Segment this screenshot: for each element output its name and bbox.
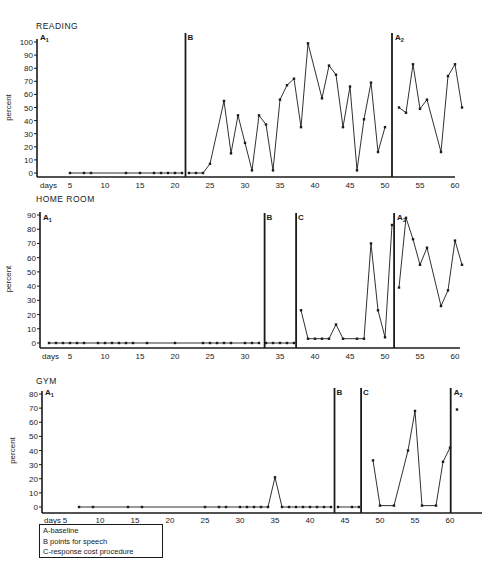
y-axis-label: percent	[4, 93, 13, 120]
data-point	[62, 342, 64, 344]
data-point	[447, 289, 449, 291]
data-point	[293, 77, 295, 79]
data-point	[405, 112, 407, 114]
data-point	[153, 172, 155, 174]
phase-label-a2: A2	[397, 213, 406, 223]
data-point	[356, 169, 358, 171]
data-point	[258, 114, 260, 116]
data-point	[456, 408, 458, 410]
data-point	[146, 342, 148, 344]
y-tick-label: 0	[32, 339, 37, 348]
data-point	[358, 506, 360, 508]
x-tick-label: 10	[101, 181, 110, 190]
x-tick-label: 5	[68, 352, 73, 361]
data-point	[132, 342, 134, 344]
legend-item-b: B points for speech	[43, 537, 159, 548]
x-axis-label: days	[40, 181, 57, 190]
data-series-line	[79, 477, 331, 507]
y-tick-label: 20	[24, 143, 33, 152]
y-tick-label: 80	[29, 390, 38, 399]
x-tick-label: 15	[136, 352, 145, 361]
data-point	[223, 100, 225, 102]
phase-label-a2: A2	[454, 388, 463, 398]
x-tick-label: 35	[276, 352, 285, 361]
data-point	[244, 342, 246, 344]
data-point	[323, 506, 325, 508]
data-series-line	[399, 218, 462, 306]
data-point	[426, 247, 428, 249]
data-point	[202, 172, 204, 174]
data-point	[223, 342, 225, 344]
data-point	[307, 42, 309, 44]
data-point	[209, 342, 211, 344]
data-point	[111, 342, 113, 344]
data-point	[370, 81, 372, 83]
x-tick-label: 25	[201, 516, 210, 525]
legend-item-a: A-baseline	[43, 526, 159, 537]
data-point	[251, 169, 253, 171]
legend-item-c: C-response cost procedure	[43, 547, 159, 558]
data-series-line	[373, 411, 450, 506]
y-tick-label: 30	[29, 461, 38, 470]
data-point	[260, 506, 262, 508]
y-tick-label: 10	[29, 489, 38, 498]
data-point	[69, 342, 71, 344]
data-point	[83, 342, 85, 344]
x-tick-label: 10	[101, 352, 110, 361]
data-point	[225, 506, 227, 508]
data-point	[300, 309, 302, 311]
data-point	[398, 286, 400, 288]
data-point	[90, 172, 92, 174]
data-point	[379, 504, 381, 506]
panel-reading: READING0102030405060708090100percentdays…	[4, 21, 463, 190]
phase-label-b: B	[188, 33, 194, 42]
phase-label-c: C	[363, 388, 369, 397]
x-tick-label: 25	[206, 181, 215, 190]
data-point	[370, 242, 372, 244]
data-point	[125, 172, 127, 174]
data-point	[405, 217, 407, 219]
data-point	[335, 323, 337, 325]
y-tick-label: 30	[27, 296, 36, 305]
x-tick-label: 25	[206, 352, 215, 361]
data-point	[461, 106, 463, 108]
data-point	[160, 172, 162, 174]
x-tick-label: 55	[416, 181, 425, 190]
y-tick-label: 70	[27, 239, 36, 248]
data-point	[384, 126, 386, 128]
y-tick-label: 90	[27, 211, 36, 220]
y-tick-label: 50	[27, 268, 36, 277]
x-tick-label: 30	[241, 181, 250, 190]
y-tick-label: 20	[29, 475, 38, 484]
data-point	[414, 410, 416, 412]
data-point	[127, 506, 129, 508]
data-point	[419, 264, 421, 266]
data-point	[461, 264, 463, 266]
data-point	[421, 504, 423, 506]
data-point	[309, 506, 311, 508]
phase-label-b: B	[267, 213, 273, 222]
y-tick-label: 0	[29, 169, 34, 178]
data-point	[83, 172, 85, 174]
data-point	[253, 506, 255, 508]
data-point	[321, 97, 323, 99]
x-tick-label: 45	[341, 516, 350, 525]
data-point	[218, 506, 220, 508]
phase-label-c: C	[298, 213, 304, 222]
data-series-line	[189, 43, 385, 173]
data-point	[391, 224, 393, 226]
data-point	[398, 106, 400, 108]
data-point	[216, 342, 218, 344]
data-point	[316, 506, 318, 508]
y-tick-label: 100	[20, 38, 34, 47]
panel-gym: GYM01020304050607080percentdays510152025…	[8, 376, 482, 525]
panel-title: GYM	[36, 376, 57, 386]
data-point	[281, 506, 283, 508]
data-point	[412, 63, 414, 65]
y-tick-label: 60	[24, 90, 33, 99]
data-point	[302, 506, 304, 508]
x-tick-label: 45	[346, 181, 355, 190]
data-point	[230, 152, 232, 154]
data-point	[442, 461, 444, 463]
data-point	[407, 449, 409, 451]
